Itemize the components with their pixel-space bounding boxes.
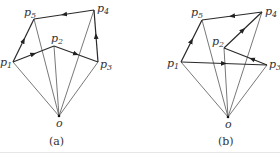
caption-a: (a) (49, 135, 64, 148)
label-p4-b: p4 (265, 5, 277, 19)
label-origin-a: o (56, 117, 63, 130)
polygon-diagrams: p1 p5 p2 p4 p3 o (a) p1 p5 p2 p4 p3 o (b… (0, 0, 280, 155)
bottom-divider (0, 152, 280, 153)
polygon-edges-b (181, 12, 267, 65)
label-p3-a: p3 (100, 58, 112, 72)
label-p3-b: p3 (269, 58, 280, 72)
figure-b: p1 p5 p2 p4 p3 o (b) (167, 5, 280, 148)
label-p4-a: p4 (97, 2, 109, 16)
label-p1-b: p1 (167, 57, 179, 71)
label-p1-a: p1 (0, 56, 12, 70)
label-p2-b: p2 (212, 35, 224, 49)
label-p5-a: p5 (24, 6, 36, 20)
label-p5-b: p5 (191, 6, 203, 20)
radial-lines-a (13, 10, 98, 116)
label-p2-a: p2 (51, 32, 63, 46)
figure-a: p1 p5 p2 p4 p3 o (a) (0, 2, 112, 148)
caption-b: (b) (218, 135, 234, 148)
label-origin-b: o (225, 118, 232, 131)
